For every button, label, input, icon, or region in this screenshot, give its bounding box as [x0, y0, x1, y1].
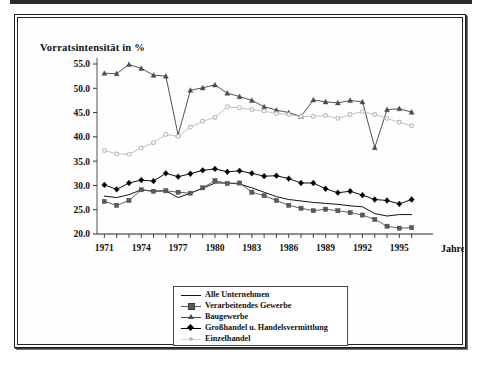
x-tick-label: 1977 [169, 243, 188, 253]
x-tick-label: 1986 [279, 243, 298, 253]
legend-item-grosshandel[interactable]: Großhandel u. Handelsvermittlung [180, 323, 343, 334]
series-alle-unternehmen [104, 183, 411, 216]
x-tick-label: 1980 [205, 243, 224, 253]
legend-marker-triangle-icon [180, 312, 202, 322]
page-canvas: Vorratsintensität in % 20.025.030.035.04… [0, 0, 490, 366]
legend-label: Großhandel u. Handelsvermittlung [205, 323, 328, 333]
y-tick-label: 50.0 [73, 84, 90, 94]
y-tick-label: 35.0 [73, 157, 90, 167]
legend-marker-dot-icon [180, 334, 202, 344]
legend-label: Alle Unternehmen [205, 290, 269, 300]
legend-item-alle-unternehmen[interactable]: Alle Unternehmen [180, 290, 343, 301]
legend-item-einzelhandel[interactable]: Einzelhandel [180, 334, 343, 345]
figure-inner-border: Vorratsintensität in % 20.025.030.035.04… [17, 17, 463, 345]
figure-frame: Vorratsintensität in % 20.025.030.035.04… [14, 14, 466, 348]
series-gro-handel-u-handelsvermittlung [102, 166, 414, 207]
legend-label: Baugewerbe [205, 312, 248, 322]
x-tick-label: 1989 [316, 243, 335, 253]
series-verarbeitendes-gewerbe [102, 178, 413, 230]
y-tick-label: 30.0 [73, 181, 90, 191]
legend-label: Einzelhandel [205, 334, 251, 344]
x-axis-title: Jahre [441, 243, 464, 254]
legend-marker-plain-line-icon [180, 290, 202, 300]
x-tick-label: 1983 [242, 243, 261, 253]
legend-label: Verarbeitendes Gewerbe [205, 301, 291, 311]
x-tick-label: 1992 [353, 243, 372, 253]
series-einzelhandel [102, 105, 413, 156]
x-tick-label: 1974 [132, 243, 151, 253]
x-tick-label: 1971 [95, 243, 114, 253]
legend-item-verarbeitendes-gewerbe[interactable]: Verarbeitendes Gewerbe [180, 301, 343, 312]
scan-artifact-band [10, 0, 472, 4]
y-tick-label: 40.0 [73, 132, 90, 142]
chart-legend: Alle Unternehmen Verarbeitendes Gewerbe … [173, 286, 348, 346]
y-tick-label: 45.0 [73, 108, 90, 118]
y-tick-label: 55.0 [73, 59, 90, 69]
y-tick-label: 20.0 [73, 229, 90, 239]
y-tick-label: 25.0 [73, 205, 90, 215]
legend-marker-diamond-icon [180, 323, 202, 333]
legend-marker-square-icon [180, 301, 202, 311]
legend-item-baugewerbe[interactable]: Baugewerbe [180, 312, 343, 323]
series-baugewerbe [102, 62, 414, 150]
x-tick-label: 1995 [390, 243, 409, 253]
